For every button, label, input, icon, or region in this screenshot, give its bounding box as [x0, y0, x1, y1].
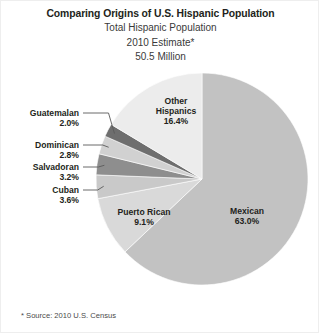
- slice-label-other-hispanics-name-2: Hispanics: [142, 106, 210, 116]
- slice-label-dominican-value: 2.8%: [35, 150, 79, 160]
- slice-label-cuban: Cuban 3.6%: [52, 185, 79, 205]
- source-footnote: * Source: 2010 U.S. Census: [21, 311, 116, 320]
- slice-label-cuban-name: Cuban: [52, 185, 79, 195]
- slice-label-salvadoran-name: Salvadoran: [33, 162, 79, 172]
- slice-label-salvadoran: Salvadoran 3.2%: [33, 162, 79, 182]
- slice-label-guatemalan: Guatemalan 2.0%: [30, 108, 79, 128]
- slice-label-salvadoran-value: 3.2%: [33, 172, 79, 182]
- slice-label-other-hispanics-name-1: Other: [165, 96, 188, 106]
- chart-container: Comparing Origins of U.S. Hispanic Popul…: [0, 0, 319, 333]
- slice-label-mexican: Mexican 63.0%: [211, 206, 283, 226]
- slice-label-other-hispanics-value: 16.4%: [142, 116, 210, 126]
- slice-label-guatemalan-value: 2.0%: [30, 118, 79, 128]
- slice-label-dominican-name: Dominican: [35, 140, 79, 150]
- slice-label-puerto-rican: Puerto Rican 9.1%: [101, 207, 187, 227]
- slice-label-mexican-name: Mexican: [230, 206, 264, 216]
- slice-label-other-hispanics: Other Hispanics 16.4%: [142, 96, 210, 127]
- slice-label-puerto-rican-value: 9.1%: [101, 217, 187, 227]
- slice-label-mexican-value: 63.0%: [211, 216, 283, 226]
- slice-label-puerto-rican-name: Puerto Rican: [117, 207, 170, 217]
- slice-label-dominican: Dominican 2.8%: [35, 140, 79, 160]
- slice-label-guatemalan-name: Guatemalan: [30, 108, 79, 118]
- slice-label-cuban-value: 3.6%: [52, 195, 79, 205]
